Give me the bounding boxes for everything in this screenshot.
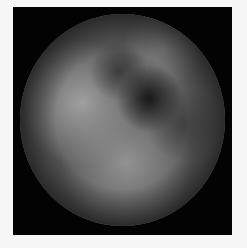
tissue-texture — [20, 14, 225, 226]
circular-view — [20, 14, 225, 226]
image-frame — [13, 7, 232, 235]
